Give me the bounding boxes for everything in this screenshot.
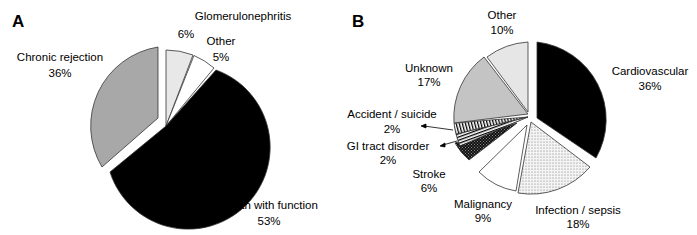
label-infection-sepsis: Infection / sepsis [535,204,621,216]
label-unknown: Unknown [405,62,453,74]
pct-other-a: 5% [213,51,230,63]
pct-chronic-rejection: 36% [48,67,71,79]
label-cardiovascular: Cardiovascular [612,65,689,77]
pct-glomerulonephritis: 6% [178,28,195,40]
pct-infection-sepsis: 18% [566,218,589,230]
panel-a-letter: A [12,12,24,31]
pct-cardiovascular: 36% [638,80,661,92]
label-malignancy: Malignancy [454,198,512,210]
label-stroke: Stroke [412,168,445,180]
arrow-accident [424,126,453,130]
pct-accident-suicide: 2% [384,123,401,135]
pct-unknown: 17% [417,76,440,88]
pct-gi-tract: 2% [380,154,397,166]
pie-b [454,42,606,194]
arrow-head-gi [440,143,445,147]
label-accident-suicide: Accident / suicide [347,108,437,120]
label-death-with-function: Death with function [220,199,318,211]
arrow-head-accident [421,124,426,128]
panel-a: A Glomerulonephritis 6% Other 5% Chronic… [12,10,318,229]
pct-death-with-function: 53% [257,215,280,227]
label-gi-tract: GI tract disorder [347,140,430,152]
figure: A Glomerulonephritis 6% Other 5% Chronic… [0,0,697,235]
panel-b-letter: B [352,12,364,31]
label-other-a: Other [207,35,236,47]
label-glomerulonephritis: Glomerulonephritis [195,10,292,22]
pct-malignancy: 9% [475,212,492,224]
label-other-b: Other [488,9,517,21]
label-chronic-rejection: Chronic rejection [17,51,103,63]
panel-b: B Other 10% Ca [347,9,689,230]
pct-stroke: 6% [421,182,438,194]
pct-other-b: 10% [490,24,513,36]
